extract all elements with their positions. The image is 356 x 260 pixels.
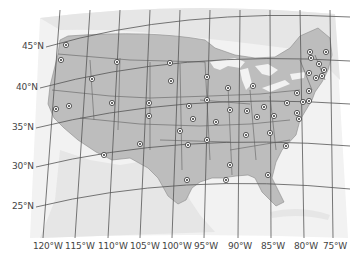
longitude-label: 105°W (130, 241, 160, 251)
latitude-label: 40°N (16, 82, 38, 92)
longitude-label: 75°W (323, 241, 347, 251)
latitude-label: 35°N (12, 122, 34, 132)
latitude-label: 45°N (22, 41, 44, 51)
longitude-label: 110°W (98, 241, 128, 251)
longitude-label: 85°W (261, 241, 285, 251)
longitude-label: 115°W (65, 241, 95, 251)
longitude-label: 100°W (162, 241, 192, 251)
map-canvas (0, 0, 356, 260)
longitude-label: 95°W (194, 241, 218, 251)
longitude-label: 90°W (228, 241, 252, 251)
longitude-label: 80°W (294, 241, 318, 251)
longitude-label: 120°W (33, 241, 63, 251)
us-capitals-map: 45°N40°N35°N30°N25°N 120°W115°W110°W105°… (0, 0, 356, 260)
latitude-label: 25°N (12, 201, 34, 211)
latitude-label: 30°N (12, 161, 34, 171)
